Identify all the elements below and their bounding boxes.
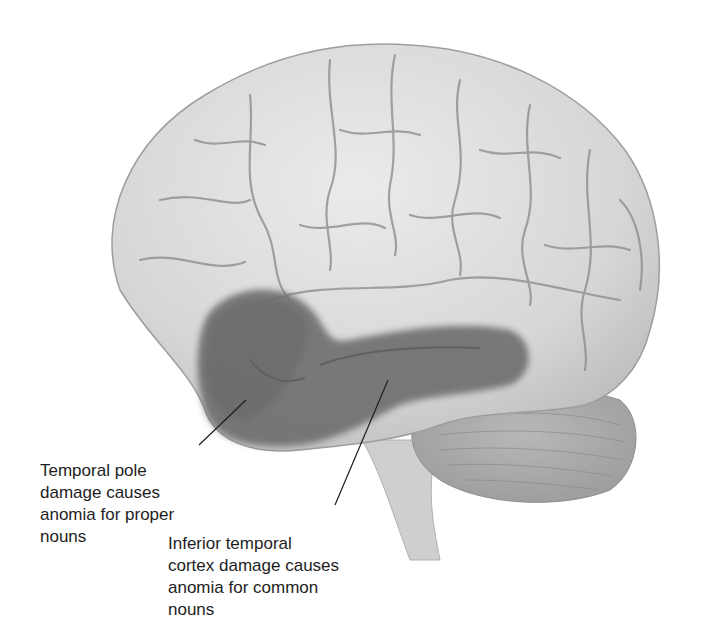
annotation-inferior-temporal: Inferior temporal cortex damage causes a… [168, 533, 408, 619]
